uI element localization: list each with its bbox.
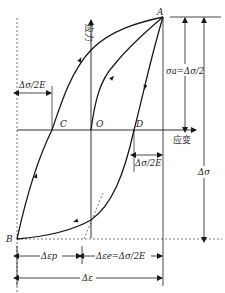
point-label-d: D [135,119,143,129]
hysteresis-loop-diagram: Δσ/2E Δσ/2E σa=Δσ/2 Δσ Δεp Δεe=Δσ/2E Δε … [0,0,225,293]
stress-range-label: Δσ [197,167,210,177]
stress-axis-label: 应力 [84,24,95,42]
direction-arrow-icon [73,218,79,223]
left-offset-label: Δσ/2E [18,80,46,90]
point-label-b: B [5,234,13,244]
point-label-o: O [96,119,104,129]
stress-amplitude-label: σa=Δσ/2 [166,66,204,76]
point-label-a: A [156,7,164,17]
direction-arrow-icon [142,85,147,91]
point-label-c: C [60,119,67,129]
right-offset-label: Δσ/2E [134,158,162,168]
elastic-dashed-line [84,193,103,239]
strain-axis-label: 应变 [173,134,191,145]
plastic-strain-label: Δεp [40,251,58,261]
initial-loading-curve [91,17,163,130]
elastic-strain-label: Δεe=Δσ/2E [95,251,146,261]
direction-arrow-icon [109,74,115,80]
total-strain-label: Δε [81,273,93,283]
